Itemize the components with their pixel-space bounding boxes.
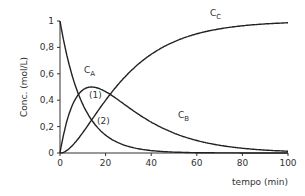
x-tick-label: 100 [279,158,296,168]
y-tick-label: 0,4 [40,95,55,105]
labels: CACBCC(1)(2) [84,8,221,126]
series-label-c-b: CB [178,110,189,123]
y-axis-title: Conc. (mol/L) [19,57,29,117]
reaction-concentration-chart: 02040608010000,20,40,60,81tempo (min)Con… [0,0,305,196]
y-tick-label: 1 [48,16,54,26]
x-tick-label: 40 [145,158,157,168]
x-axis-title: tempo (min) [232,177,288,187]
series-label-c-a: CA [84,65,95,78]
annotation-1: (1) [89,90,102,100]
x-tick-label: 60 [191,158,203,168]
y-tick-label: 0,6 [40,69,55,79]
annotation-2: (2) [97,116,110,126]
y-tick-label: 0,8 [40,42,55,52]
curves [60,21,288,153]
axes: 02040608010000,20,40,60,81tempo (min)Con… [19,16,297,187]
series-label-c-c: CC [210,8,221,21]
x-tick-label: 0 [57,158,63,168]
y-tick-label: 0 [48,148,54,158]
y-tick-label: 0,2 [40,122,54,132]
x-tick-label: 20 [100,158,112,168]
x-tick-label: 80 [237,158,249,168]
